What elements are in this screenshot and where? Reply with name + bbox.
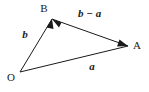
vector-b-minus-a-line [52, 19, 128, 46]
point-label-o: O [7, 71, 15, 83]
vector-b-minus-a-label: b − a [78, 7, 102, 19]
vector-b-minus-a-group: b − a [52, 7, 128, 46]
vector-b-label: b [22, 28, 28, 40]
vector-b-arrowhead [47, 19, 54, 29]
point-label-a: A [133, 39, 141, 51]
point-label-b: B [40, 2, 47, 14]
vector-a-line [20, 46, 128, 72]
vector-b-group: b [20, 19, 54, 72]
vector-a-label: a [89, 60, 95, 72]
vector-triangle-diagram: a b b − a O A B [0, 0, 149, 92]
vector-triangle-figure: a b b − a O A B [0, 0, 149, 92]
